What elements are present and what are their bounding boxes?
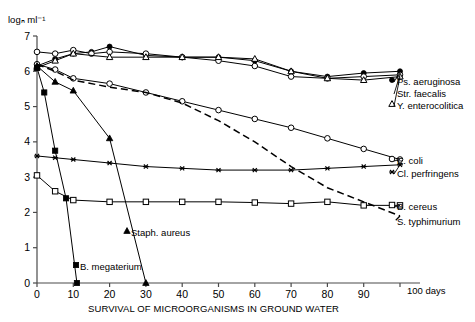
x-axis-unit-label: 100 days: [407, 285, 446, 296]
chart-title: SURVIVAL OF MICROORGANISMS IN GROUND WAT…: [88, 303, 339, 314]
svg-text:0: 0: [24, 277, 30, 289]
svg-text:1: 1: [24, 241, 30, 253]
svg-text:4: 4: [24, 135, 30, 147]
series-label-b-megaterium: B. megaterium: [80, 261, 142, 272]
svg-text:6: 6: [24, 65, 30, 77]
svg-text:2: 2: [24, 206, 30, 218]
y-axis-label: logₙ ml⁻¹: [8, 14, 46, 25]
svg-text:20: 20: [104, 288, 116, 300]
series-label-str-faecalis: Str. faecalis: [397, 88, 446, 99]
svg-text:80: 80: [322, 288, 334, 300]
svg-text:50: 50: [213, 288, 225, 300]
svg-text:40: 40: [176, 288, 188, 300]
svg-text:10: 10: [67, 288, 79, 300]
series-label-ps-aeruginosa: Ps. aeruginosa: [397, 76, 460, 87]
series-label-b-cereus: B. cereus: [397, 201, 437, 212]
series-label-e-coli: E. coli: [397, 155, 423, 166]
svg-text:7: 7: [24, 30, 30, 42]
svg-text:3: 3: [24, 171, 30, 183]
series-label-y-enterocolitica: Y. enterocolitica: [397, 100, 463, 111]
svg-text:30: 30: [140, 288, 152, 300]
svg-text:90: 90: [358, 288, 370, 300]
svg-text:0: 0: [34, 288, 40, 300]
chart-container: 01234567 0102030405060708090 logₙ ml⁻¹ S…: [0, 0, 475, 322]
series-label-cl-perfringens: Cl. perfringens: [397, 168, 459, 179]
svg-text:70: 70: [285, 288, 297, 300]
svg-text:60: 60: [249, 288, 261, 300]
svg-text:5: 5: [24, 100, 30, 112]
series-label-s-typhimurium: S. typhimurium: [397, 216, 460, 227]
series-label-staph-aureus: Staph. aureus: [131, 227, 190, 238]
